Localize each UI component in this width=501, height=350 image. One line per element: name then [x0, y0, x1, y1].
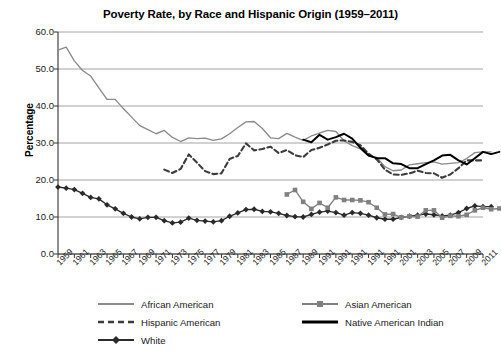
- legend-label: African American: [141, 299, 214, 310]
- chart-legend: African AmericanAsian AmericanHispanic A…: [0, 296, 501, 350]
- legend-swatch-line-dark-dashed: [96, 316, 136, 328]
- legend-label: Native American Indian: [345, 317, 444, 328]
- chart-container: Poverty Rate, by Race and Hispanic Origi…: [0, 0, 501, 350]
- x-tick-label: 1983: [251, 247, 271, 267]
- x-tick-label: 2011: [480, 248, 499, 267]
- legend-label: White: [141, 335, 166, 346]
- legend-item-african-american[interactable]: African American: [96, 298, 214, 310]
- legend-item-white[interactable]: White: [96, 334, 166, 346]
- x-tick-label: 2001: [398, 247, 418, 267]
- legend-swatch-line-gray-square: [300, 298, 340, 310]
- legend-swatch-line-gray-solid: [96, 298, 136, 310]
- legend-label: Asian American: [345, 299, 412, 310]
- legend-swatch-line-black-solid: [300, 316, 340, 328]
- x-tick-label: 1991: [349, 247, 369, 267]
- legend-label: Hispanic American: [141, 317, 220, 328]
- legend-swatch-line-dark-diamond: [96, 334, 136, 346]
- x-tick-label: 1989: [300, 247, 320, 267]
- legend-item-native-american-indian[interactable]: Native American Indian: [300, 316, 444, 328]
- legend-item-hispanic-american[interactable]: Hispanic American: [96, 316, 220, 328]
- legend-item-asian-american[interactable]: Asian American: [300, 298, 412, 310]
